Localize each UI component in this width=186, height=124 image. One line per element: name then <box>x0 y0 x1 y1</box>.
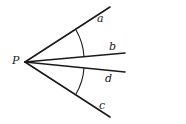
ray-label-a: a <box>97 13 104 24</box>
ray-label-c: c <box>99 100 105 111</box>
arc-dc <box>76 68 84 94</box>
ray-b <box>25 53 125 62</box>
diagram-svg <box>0 0 186 124</box>
arc-ab <box>76 30 84 57</box>
angle-diagram: P a b d c <box>0 0 186 124</box>
ray-label-b: b <box>109 41 116 52</box>
ray-c <box>25 62 110 117</box>
ray-d <box>25 62 125 72</box>
vertex-label-p: P <box>12 55 19 66</box>
ray-label-d: d <box>105 73 112 84</box>
